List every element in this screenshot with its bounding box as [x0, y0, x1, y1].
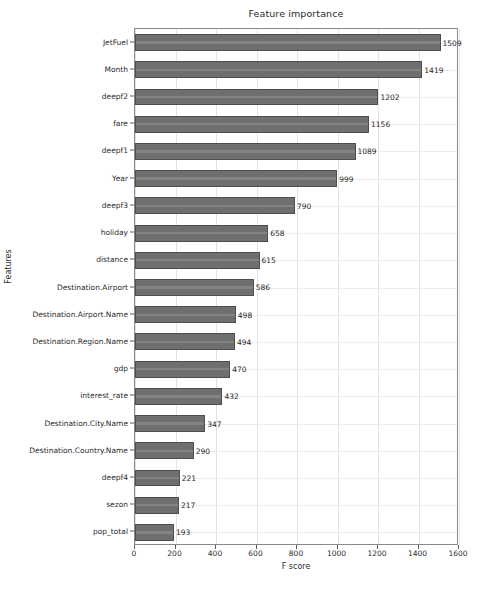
- bar[interactable]: [135, 388, 222, 405]
- bar-value-label: 586: [254, 283, 270, 292]
- bar-value-label: 494: [235, 337, 251, 346]
- bar-row[interactable]: 494: [135, 333, 457, 350]
- x-tick-label: 1400: [408, 549, 427, 558]
- y-tick-label: Destination.Region.Name: [0, 336, 128, 345]
- bar-value-label: 790: [295, 201, 311, 210]
- bar[interactable]: [135, 497, 179, 514]
- bar-row[interactable]: 432: [135, 388, 457, 405]
- bar[interactable]: [135, 333, 235, 350]
- bar-row[interactable]: 658: [135, 225, 457, 242]
- bar-row[interactable]: 1509: [135, 34, 457, 51]
- bar-row[interactable]: 615: [135, 252, 457, 269]
- bar-value-label: 1202: [378, 93, 399, 102]
- bar-value-label: 615: [260, 256, 276, 265]
- bar[interactable]: [135, 34, 441, 51]
- bar[interactable]: [135, 361, 230, 378]
- bar-value-label: 999: [337, 174, 353, 183]
- x-tick-label: 0: [132, 549, 137, 558]
- x-tick-label: 600: [248, 549, 262, 558]
- bar[interactable]: [135, 170, 337, 187]
- bar-row[interactable]: 1202: [135, 89, 457, 106]
- y-tick-label: pop_total: [0, 527, 128, 536]
- bar-row[interactable]: 347: [135, 415, 457, 432]
- x-tick-label: 800: [289, 549, 303, 558]
- x-tick-mark: [418, 545, 419, 549]
- y-tick-label: Year: [0, 173, 128, 182]
- bar[interactable]: [135, 442, 194, 459]
- x-tick-label: 400: [208, 549, 222, 558]
- y-tick-label: holiday: [0, 228, 128, 237]
- bar-value-label: 1419: [422, 65, 443, 74]
- bar[interactable]: [135, 197, 295, 214]
- x-tick-mark: [215, 545, 216, 549]
- bar-row[interactable]: 498: [135, 306, 457, 323]
- x-tick-mark: [256, 545, 257, 549]
- plot-area: 1509141912021156108999979065861558649849…: [134, 28, 458, 545]
- y-tick-label: distance: [0, 255, 128, 264]
- bar-row[interactable]: 193: [135, 524, 457, 541]
- bar[interactable]: [135, 61, 422, 78]
- bar[interactable]: [135, 252, 260, 269]
- bar-value-label: 290: [194, 446, 210, 455]
- bar[interactable]: [135, 279, 254, 296]
- bar-value-label: 432: [222, 392, 238, 401]
- bar[interactable]: [135, 470, 180, 487]
- x-tick-label: 200: [167, 549, 181, 558]
- x-tick-mark: [377, 545, 378, 549]
- bar-value-label: 1089: [356, 147, 377, 156]
- bar-value-label: 193: [174, 528, 190, 537]
- bar[interactable]: [135, 143, 356, 160]
- y-tick-label: Month: [0, 64, 128, 73]
- bar-value-label: 221: [180, 473, 196, 482]
- bar-row[interactable]: 221: [135, 470, 457, 487]
- x-tick-mark: [458, 545, 459, 549]
- bar-value-label: 470: [230, 365, 246, 374]
- bar[interactable]: [135, 524, 174, 541]
- bar-row[interactable]: 1419: [135, 61, 457, 78]
- bar-row[interactable]: 290: [135, 442, 457, 459]
- bar[interactable]: [135, 415, 205, 432]
- bar-row[interactable]: 1089: [135, 143, 457, 160]
- bar-value-label: 498: [236, 310, 252, 319]
- x-tick-mark: [175, 545, 176, 549]
- bar-value-label: 1509: [441, 38, 462, 47]
- bar-value-label: 347: [205, 419, 221, 428]
- bar-row[interactable]: 586: [135, 279, 457, 296]
- y-tick-label: sezon: [0, 500, 128, 509]
- x-tick-label: 1200: [367, 549, 386, 558]
- bar-row[interactable]: 217: [135, 497, 457, 514]
- x-tick-label: 1000: [327, 549, 346, 558]
- x-tick-mark: [296, 545, 297, 549]
- y-tick-label: fare: [0, 119, 128, 128]
- bar[interactable]: [135, 89, 378, 106]
- y-tick-label: deepf4: [0, 472, 128, 481]
- y-tick-label: interest_rate: [0, 391, 128, 400]
- bar-row[interactable]: 1156: [135, 116, 457, 133]
- vertical-gridline: [459, 29, 460, 544]
- bar[interactable]: [135, 306, 236, 323]
- bar-row[interactable]: 790: [135, 197, 457, 214]
- y-tick-label: Destination.Country.Name: [0, 445, 128, 454]
- bar-value-label: 217: [179, 501, 195, 510]
- bar-row[interactable]: 999: [135, 170, 457, 187]
- bars-container: 1509141912021156108999979065861558649849…: [135, 29, 457, 544]
- x-axis-title: F score: [134, 562, 458, 571]
- bar-row[interactable]: 470: [135, 361, 457, 378]
- y-tick-label: Destination.Airport: [0, 282, 128, 291]
- x-tick-label: 1600: [448, 549, 467, 558]
- x-tick-mark: [337, 545, 338, 549]
- bar[interactable]: [135, 225, 268, 242]
- y-tick-label: JetFuel: [0, 37, 128, 46]
- y-axis-title: Features: [4, 237, 13, 297]
- y-tick-label: deepf1: [0, 146, 128, 155]
- bar-value-label: 658: [268, 229, 284, 238]
- y-tick-label: Destination.City.Name: [0, 418, 128, 427]
- bar-value-label: 1156: [369, 120, 390, 129]
- y-tick-label: deepf2: [0, 92, 128, 101]
- y-tick-label: Destination.Airport.Name: [0, 309, 128, 318]
- y-tick-label: deepf3: [0, 200, 128, 209]
- y-tick-label: gdp: [0, 364, 128, 373]
- bar[interactable]: [135, 116, 369, 133]
- chart-title: Feature importance: [134, 8, 458, 19]
- feature-importance-chart: Feature importance 150914191202115610899…: [0, 0, 480, 595]
